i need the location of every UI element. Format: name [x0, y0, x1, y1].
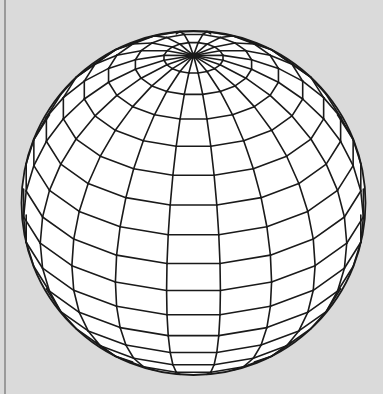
wireframe-sphere	[0, 0, 383, 394]
north-pole-icon	[188, 53, 200, 59]
figure-frame	[0, 0, 383, 394]
